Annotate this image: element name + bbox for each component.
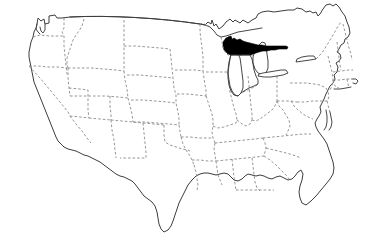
united-states-map[interactable] [0,0,367,246]
us-locator-map-figure [0,0,367,246]
